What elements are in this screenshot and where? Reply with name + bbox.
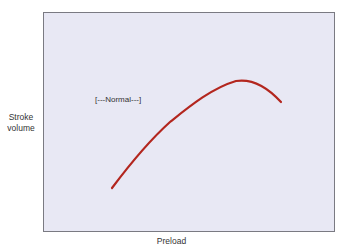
y-axis-label: Stroke volume (2, 112, 40, 134)
frank-starling-curve (0, 0, 343, 250)
y-axis-label-line2: volume (2, 123, 40, 134)
y-axis-label-line1: Stroke (2, 112, 40, 123)
normal-range-annotation: [---Normal---] (95, 95, 141, 104)
x-axis-label: Preload (0, 236, 343, 246)
